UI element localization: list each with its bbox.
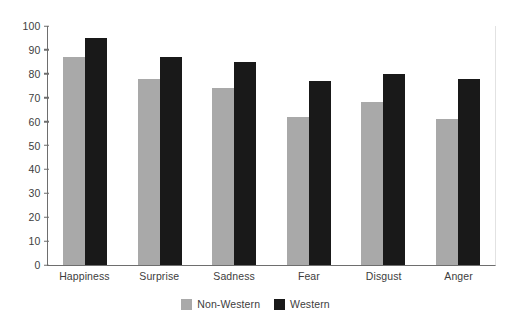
bar-nonwestern[interactable] — [287, 117, 309, 265]
bar-group — [123, 26, 198, 265]
y-axis-tick-label: 40 — [29, 164, 41, 175]
legend-item-nonwestern[interactable]: Non-Western — [181, 298, 260, 310]
legend-label-western: Western — [290, 298, 330, 310]
bar-groups — [48, 26, 495, 265]
y-axis-tick-label: 50 — [29, 140, 41, 151]
y-axis-tick-label: 60 — [29, 116, 41, 127]
y-axis-tick-label: 0 — [34, 260, 40, 271]
y-axis-tick-90: 90 — [29, 45, 49, 56]
y-axis-tick-label: 80 — [29, 69, 41, 80]
x-axis-label-happiness: Happiness — [47, 270, 122, 282]
bar-nonwestern[interactable] — [212, 88, 234, 265]
y-axis-tick-70: 70 — [29, 92, 49, 103]
bar-group — [272, 26, 347, 265]
y-axis-tick-label: 10 — [29, 236, 41, 247]
bar-western[interactable] — [458, 79, 480, 265]
bar-western[interactable] — [234, 62, 256, 265]
y-axis-tick-0: 0 — [34, 260, 48, 271]
bar-group — [421, 26, 496, 265]
y-axis-tick-label: 70 — [29, 92, 41, 103]
x-axis-labels: Happiness Surprise Sadness Fear Disgust … — [47, 270, 496, 282]
bar-group — [197, 26, 272, 265]
x-axis-label-surprise: Surprise — [122, 270, 197, 282]
y-axis-tick-40: 40 — [29, 164, 49, 175]
legend-item-western[interactable]: Western — [274, 298, 330, 310]
bar-western[interactable] — [85, 38, 107, 265]
y-axis-tick-label: 30 — [29, 188, 41, 199]
x-axis-label-fear: Fear — [271, 270, 346, 282]
x-axis-label-sadness: Sadness — [197, 270, 272, 282]
legend-label-nonwestern: Non-Western — [197, 298, 260, 310]
legend-swatch-gray-icon — [181, 299, 192, 310]
x-axis-label-disgust: Disgust — [346, 270, 421, 282]
bar-group — [48, 26, 123, 265]
chart-legend: Non-Western Western — [0, 298, 511, 310]
legend-swatch-black-icon — [274, 299, 285, 310]
bar-nonwestern[interactable] — [436, 119, 458, 265]
y-axis-tick-50: 50 — [29, 140, 49, 151]
y-axis-tick-100: 100 — [23, 21, 48, 32]
bar-nonwestern[interactable] — [63, 57, 85, 265]
y-axis-tick-30: 30 — [29, 188, 49, 199]
bar-nonwestern[interactable] — [138, 79, 160, 265]
bar-nonwestern[interactable] — [361, 102, 383, 265]
bar-western[interactable] — [383, 74, 405, 265]
y-axis-tick-80: 80 — [29, 69, 49, 80]
grouped-bar-chart: 0 10 20 30 40 50 60 70 — [0, 0, 511, 322]
y-axis-tick-10: 10 — [29, 236, 49, 247]
y-axis-tick-label: 20 — [29, 212, 41, 223]
y-axis-tick-label: 90 — [29, 45, 41, 56]
x-axis-label-anger: Anger — [421, 270, 496, 282]
y-axis-tick-label: 100 — [23, 21, 41, 32]
plot-area: 0 10 20 30 40 50 60 70 — [47, 26, 496, 266]
bar-group — [346, 26, 421, 265]
bar-western[interactable] — [160, 57, 182, 265]
y-axis-tick-20: 20 — [29, 212, 49, 223]
y-axis-tick-60: 60 — [29, 116, 49, 127]
bar-western[interactable] — [309, 81, 331, 265]
